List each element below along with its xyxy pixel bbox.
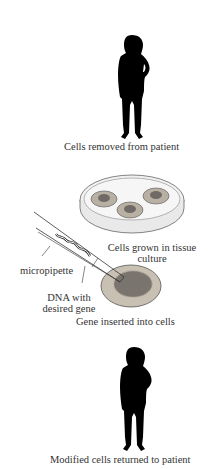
colony xyxy=(91,191,117,207)
colony xyxy=(117,202,143,218)
micropipette-label: micropipette xyxy=(20,265,73,277)
step2-label-line2: culture xyxy=(96,253,208,265)
diagram-canvas xyxy=(0,0,211,469)
step1-label: Cells removed from patient xyxy=(64,141,179,153)
target-cell xyxy=(101,265,161,307)
step3-label: Gene inserted into cells xyxy=(76,316,175,328)
patient-silhouette-top xyxy=(118,35,150,139)
dna-label-line2: desired gene xyxy=(34,303,104,315)
petri-dish xyxy=(80,175,184,233)
step4-label: Modified cells returned to patient xyxy=(50,454,191,466)
colony xyxy=(143,188,169,204)
patient-silhouette-bottom xyxy=(120,347,152,451)
